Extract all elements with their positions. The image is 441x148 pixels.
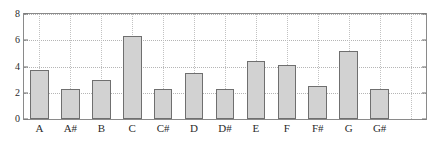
x-axis-tick-label: A# xyxy=(64,123,77,134)
x-axis-tick-label: D# xyxy=(218,123,231,134)
bar xyxy=(154,89,173,119)
x-axis-tick-label: C xyxy=(129,123,136,134)
y-axis-tick-mark xyxy=(422,92,426,93)
bar xyxy=(185,73,204,119)
bar xyxy=(123,36,142,119)
y-axis-tick-label: 2 xyxy=(15,88,20,98)
y-axis-tick-mark xyxy=(422,14,426,15)
y-axis-tick-mark xyxy=(24,14,28,15)
x-axis-tick-label: G xyxy=(345,123,353,134)
x-axis-tick-label: F# xyxy=(312,123,324,134)
bar xyxy=(92,80,111,119)
y-axis-tick-mark xyxy=(24,66,28,67)
y-axis-tick-mark xyxy=(422,40,426,41)
y-axis-tick-label: 0 xyxy=(15,114,20,124)
bar xyxy=(370,89,389,119)
y-axis-tick-label: 4 xyxy=(15,62,20,72)
bar xyxy=(278,65,297,119)
x-axis-tick-label: B xyxy=(98,123,105,134)
bar xyxy=(308,86,327,119)
x-axis-tick-label: D xyxy=(190,123,198,134)
y-axis-tick-label: 6 xyxy=(15,35,20,45)
x-axis-tick-label: A xyxy=(35,123,43,134)
y-axis-tick-label: 8 xyxy=(15,9,20,19)
y-axis-tick-mark xyxy=(24,92,28,93)
bar xyxy=(61,89,80,119)
x-gridline xyxy=(411,14,412,119)
plot-area: 02468AA#BCC#DD#EFF#GG# xyxy=(23,13,427,120)
y-axis-tick-mark xyxy=(24,119,28,120)
x-axis-tick-label: G# xyxy=(373,123,386,134)
bar xyxy=(247,61,266,119)
bar-chart-figure: 02468AA#BCC#DD#EFF#GG# xyxy=(0,0,441,148)
y-axis-tick-mark xyxy=(422,66,426,67)
y-axis-tick-mark xyxy=(422,119,426,120)
x-axis-tick-label: F xyxy=(284,123,290,134)
x-axis-tick-label: E xyxy=(253,123,260,134)
bar xyxy=(339,51,358,119)
bar xyxy=(30,70,49,119)
bar xyxy=(216,89,235,119)
y-axis-tick-mark xyxy=(24,40,28,41)
x-axis-tick-label: C# xyxy=(157,123,170,134)
